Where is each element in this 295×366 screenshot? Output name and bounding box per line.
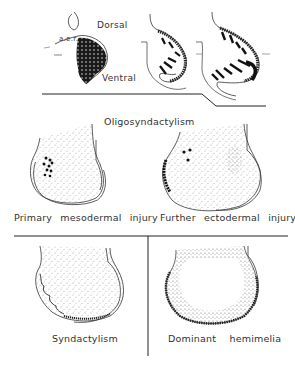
limb-bud-stage-3 [196, 12, 270, 100]
caption-further-ectodermal-injury: Further ectodermal injury [160, 212, 295, 223]
syndactylism-drawing [36, 246, 124, 322]
section-title-oligosyndactylism: Oligosyndactylism [104, 116, 195, 127]
caption-dominant-hemimelia: Dominant hemimelia [168, 333, 281, 344]
caption-syndactylism: Syndactylism [52, 333, 118, 344]
dorsal-label: Dorsal [97, 20, 128, 30]
further-ectodermal-injury-drawing [163, 124, 262, 211]
ventral-label: Ventral [102, 73, 136, 83]
dominant-hemimelia-drawing [166, 246, 258, 324]
diagram-canvas [0, 0, 295, 366]
aer-label: a.e.r. [59, 35, 78, 43]
primary-mesodermal-injury-drawing [30, 124, 105, 205]
caption-primary-mesodermal-injury: Primary mesodermal injury [14, 212, 158, 223]
top-divider-line [42, 94, 266, 106]
limb-bud-stage-2 [141, 14, 202, 89]
